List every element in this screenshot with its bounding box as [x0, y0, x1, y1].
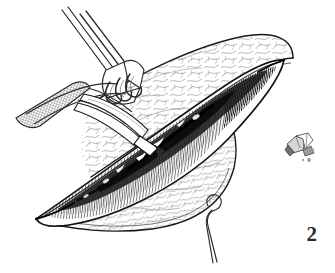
surgical-illustration	[0, 0, 335, 273]
figure-number: 2	[307, 224, 318, 245]
figure-container: 2	[0, 0, 335, 273]
